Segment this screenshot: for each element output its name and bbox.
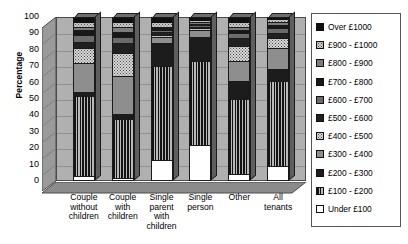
x-tick-label: Alltenants — [254, 193, 302, 212]
legend-label: £500 - £600 — [328, 113, 373, 123]
bar-column[interactable] — [189, 17, 211, 181]
legend-item[interactable]: £200 - £300 — [316, 164, 397, 182]
bar-column[interactable] — [228, 17, 250, 181]
legend-swatch — [316, 78, 324, 86]
legend-item[interactable]: £400 - £500 — [316, 127, 397, 145]
legend-swatch — [316, 132, 324, 140]
bar-segment — [190, 38, 210, 63]
bar-side — [211, 11, 217, 180]
bar-group — [56, 17, 306, 181]
bar-column[interactable] — [151, 17, 173, 181]
bar-segment — [268, 49, 288, 70]
bar-segment — [229, 100, 249, 175]
bar-segment — [268, 70, 288, 81]
legend-swatch — [316, 23, 324, 31]
bar-column[interactable] — [73, 17, 95, 181]
y-tick-label: 90 — [13, 28, 39, 37]
x-tick-label-line: children — [138, 222, 186, 232]
legend-swatch — [316, 96, 324, 104]
legend-label: £400 - £500 — [328, 131, 373, 141]
legend-swatch — [316, 150, 324, 158]
bar-segment — [113, 120, 133, 179]
legend-item[interactable]: Over £1000 — [316, 18, 397, 36]
bar-segment — [74, 49, 94, 64]
bar-segment — [190, 62, 210, 146]
legend-swatch — [316, 205, 324, 213]
y-tick-label: 40 — [13, 110, 39, 119]
legend-swatch — [316, 114, 324, 122]
legend-item[interactable]: £100 - £200 — [316, 182, 397, 200]
legend-item[interactable]: £300 - £400 — [316, 145, 397, 163]
bar-face — [112, 17, 134, 181]
x-tick-label-line: tenants — [254, 203, 302, 213]
legend-item[interactable]: £600 - £700 — [316, 91, 397, 109]
y-tick-label: 0 — [13, 176, 39, 185]
bar-segment — [229, 175, 249, 181]
bar-side — [289, 11, 295, 180]
y-tick-label: 100 — [13, 12, 39, 21]
bar-face — [151, 17, 173, 181]
bar-segment — [268, 167, 288, 181]
bar-segment — [190, 146, 210, 181]
bar-segment — [74, 177, 94, 181]
legend-swatch — [316, 187, 324, 195]
bar-segment — [113, 44, 133, 54]
bar-side — [250, 11, 256, 180]
legend-label: Under £100 — [328, 204, 372, 214]
legend-swatch — [316, 41, 324, 49]
bar-segment — [152, 161, 172, 181]
bar-side — [134, 11, 140, 180]
legend-swatch — [316, 169, 324, 177]
y-tick-label: 50 — [13, 94, 39, 103]
bar-segment — [152, 44, 172, 67]
y-tick-label: 10 — [13, 160, 39, 169]
plot-area — [42, 17, 306, 191]
x-axis-tick-labels: CouplewithoutchildrenCouplewithchildrenS… — [42, 193, 322, 243]
bar-side — [95, 11, 101, 180]
bar-segment — [113, 77, 133, 115]
bar-segment — [74, 97, 94, 177]
bar-segment — [229, 39, 249, 47]
x-tick-label-line: person — [176, 203, 224, 213]
legend-item[interactable]: £700 - £800 — [316, 73, 397, 91]
bar-face — [73, 17, 95, 181]
bar-segment — [229, 47, 249, 62]
legend-label: £700 - £800 — [328, 77, 373, 87]
chart-container: Percentage 1009080706050403020100 — [0, 0, 408, 244]
y-tick-label: 30 — [13, 127, 39, 136]
bar-segment — [268, 82, 288, 167]
left-wall-shape — [42, 17, 57, 191]
bar-column[interactable] — [267, 17, 289, 181]
legend-label: Over £1000 — [328, 22, 372, 32]
y-tick-label: 80 — [13, 45, 39, 54]
bar-segment — [74, 64, 94, 94]
bar-segment — [113, 179, 133, 181]
legend: Over £1000£900 - £1000£800 - £900£700 - … — [311, 13, 401, 227]
y-tick-label: 70 — [13, 61, 39, 70]
bar-segment — [113, 54, 133, 77]
legend-item[interactable]: £800 - £900 — [316, 54, 397, 72]
bar-side — [173, 11, 179, 180]
legend-item[interactable]: Under £100 — [316, 200, 397, 218]
bar-segment — [152, 67, 172, 160]
y-axis-tick-labels: 1009080706050403020100 — [13, 0, 39, 244]
bar-column[interactable] — [112, 17, 134, 181]
bar-segment — [229, 62, 249, 82]
legend-label: £800 - £900 — [328, 58, 373, 68]
legend-label: £600 - £700 — [328, 95, 373, 105]
legend-label: £300 - £400 — [328, 149, 373, 159]
bar-face — [189, 17, 211, 181]
bar-segment — [229, 82, 249, 100]
legend-swatch — [316, 59, 324, 67]
left-wall — [42, 17, 57, 191]
legend-label: £100 - £200 — [328, 186, 373, 196]
legend-label: £200 - £300 — [328, 168, 373, 178]
legend-item[interactable]: £500 - £600 — [316, 109, 397, 127]
floor — [42, 180, 306, 191]
legend-item[interactable]: £900 - £1000 — [316, 36, 397, 54]
bar-segment — [268, 39, 288, 49]
y-tick-label: 20 — [13, 143, 39, 152]
y-tick-label: 60 — [13, 78, 39, 87]
bar-face — [267, 17, 289, 181]
legend-label: £900 - £1000 — [328, 40, 377, 50]
